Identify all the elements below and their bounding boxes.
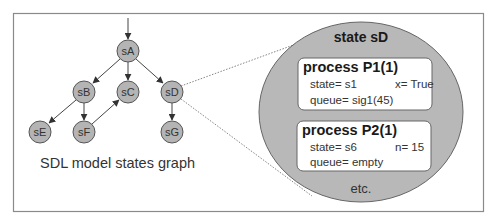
process-title: process P1(1) xyxy=(303,59,398,75)
process-title: process P2(1) xyxy=(302,122,397,138)
process-variable: n= 15 xyxy=(395,141,424,153)
node-label: sE xyxy=(34,126,47,138)
process-queue: queue= empty xyxy=(310,156,383,168)
node-label: sF xyxy=(78,126,91,138)
diagram-canvas: sA sB sC sD sE sF sG SDL model states gr… xyxy=(0,0,497,220)
process-state: state= s1 xyxy=(310,78,357,90)
state-title: state sD xyxy=(334,29,388,45)
process-variable: x= True xyxy=(395,78,434,90)
node-label: sC xyxy=(121,86,135,98)
node-sC: sC xyxy=(117,81,139,103)
node-sG: sG xyxy=(161,121,183,143)
graph-caption: SDL model states graph xyxy=(40,155,195,171)
node-label: sG xyxy=(165,126,179,138)
process-box-p2: process P2(1) state= s6 n= 15 queue= emp… xyxy=(297,121,431,171)
node-sA: sA xyxy=(117,40,139,62)
node-sD: sD xyxy=(161,81,183,103)
node-sF: sF xyxy=(73,121,95,143)
node-label: sD xyxy=(165,86,179,98)
process-box-p1: process P1(1) state= s1 x= True queue= s… xyxy=(298,58,434,110)
node-sE: sE xyxy=(29,121,51,143)
process-queue: queue= sig1(45) xyxy=(310,94,394,106)
node-label: sA xyxy=(122,45,136,57)
process-state: state= s6 xyxy=(310,141,357,153)
node-label: sB xyxy=(78,86,91,98)
etc-label: etc. xyxy=(351,181,372,196)
state-detail-ellipse xyxy=(259,22,463,202)
node-sB: sB xyxy=(73,81,95,103)
